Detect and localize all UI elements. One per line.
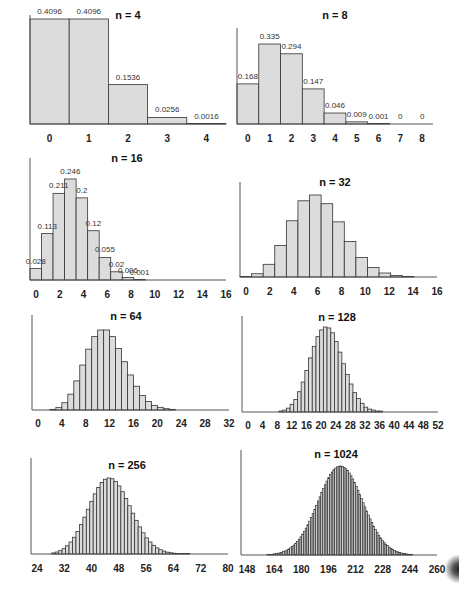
x-tick-label: 148	[239, 564, 256, 575]
x-tick-label: 196	[320, 564, 337, 575]
x-tick-label: 164	[266, 564, 283, 575]
chart-title: n = 1024	[314, 448, 358, 460]
x-tick-label: 212	[347, 564, 364, 575]
page-edge-shadow	[445, 555, 459, 583]
chart-plot-area	[0, 0, 459, 596]
x-tick-label: 180	[293, 564, 310, 575]
x-tick-label: 244	[402, 564, 419, 575]
x-tick-label: 228	[374, 564, 391, 575]
x-tick-label: 260	[429, 564, 446, 575]
